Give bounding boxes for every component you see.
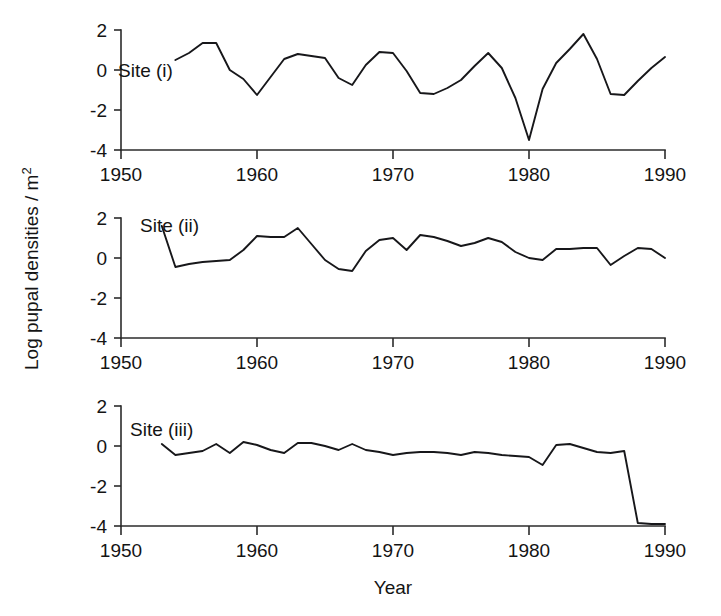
x-tick-label: 1950 — [100, 540, 142, 561]
y-tick-label: -2 — [90, 476, 107, 497]
x-tick-label: 1960 — [236, 540, 278, 561]
x-tick-label: 1980 — [508, 352, 550, 373]
x-tick-label: 1990 — [644, 164, 686, 185]
y-tick-label: 2 — [96, 396, 107, 417]
y-tick-label: 2 — [96, 20, 107, 41]
panel-label-site-i: Site (i) — [118, 60, 173, 81]
x-axis-title: Year — [374, 577, 413, 598]
y-tick-label: 2 — [96, 208, 107, 229]
y-tick-label: 0 — [96, 248, 107, 269]
panel-label-site-ii: Site (ii) — [140, 215, 199, 236]
y-axis-title-superscript: 2 — [19, 167, 34, 174]
y-tick-label: -4 — [90, 516, 107, 537]
svg-text:Log pupal densities / m2: Log pupal densities / m2 — [19, 167, 42, 370]
y-tick-label: -4 — [90, 140, 107, 161]
x-tick-label: 1970 — [372, 540, 414, 561]
y-axis-title-text: Log pupal densities / m — [21, 175, 42, 370]
x-tick-label: 1950 — [100, 164, 142, 185]
y-tick-label: 0 — [96, 436, 107, 457]
figure-root: Log pupal densities / m2 2 0 -2 -4 — [0, 0, 721, 616]
x-tick-label: 1970 — [372, 164, 414, 185]
x-tick-label: 1960 — [236, 164, 278, 185]
y-axis-title: Log pupal densities / m2 — [19, 167, 42, 370]
y-tick-label: -2 — [90, 100, 107, 121]
y-tick-label: -4 — [90, 328, 107, 349]
x-tick-label: 1950 — [100, 352, 142, 373]
panel-label-site-iii: Site (iii) — [130, 419, 193, 440]
figure-background — [0, 0, 721, 616]
x-tick-label: 1970 — [372, 352, 414, 373]
y-tick-label: -2 — [90, 288, 107, 309]
y-tick-label: 0 — [96, 60, 107, 81]
x-tick-label: 1990 — [644, 352, 686, 373]
x-tick-label: 1960 — [236, 352, 278, 373]
x-tick-label: 1990 — [644, 540, 686, 561]
x-tick-label: 1980 — [508, 164, 550, 185]
chart-canvas: Log pupal densities / m2 2 0 -2 -4 — [0, 0, 721, 616]
x-tick-label: 1980 — [508, 540, 550, 561]
